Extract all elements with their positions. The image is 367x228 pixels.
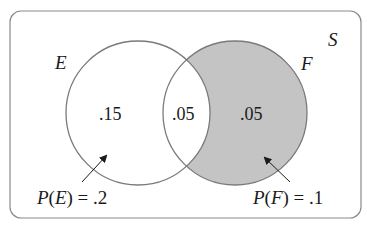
annotation-pf: P(F) = .1 xyxy=(252,187,323,209)
annotation-pe: P(E) = .2 xyxy=(36,187,107,209)
set-e-label: E xyxy=(54,52,67,73)
region-f-only: .05 xyxy=(240,104,263,124)
region-e-and-f: .05 xyxy=(172,104,195,124)
region-e-only: .15 xyxy=(99,104,122,124)
set-f-label: F xyxy=(300,53,313,74)
venn-diagram: S E F .15 .05 .05 P(E) = .2 P(F) = .1 xyxy=(0,0,367,228)
sample-space-label: S xyxy=(328,29,338,50)
